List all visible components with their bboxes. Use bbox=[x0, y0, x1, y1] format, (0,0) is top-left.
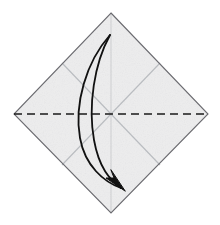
fold-diagram-canvas bbox=[0, 0, 220, 225]
origami-diagram-root: Origami valley-fold step diagram square … bbox=[0, 0, 220, 225]
